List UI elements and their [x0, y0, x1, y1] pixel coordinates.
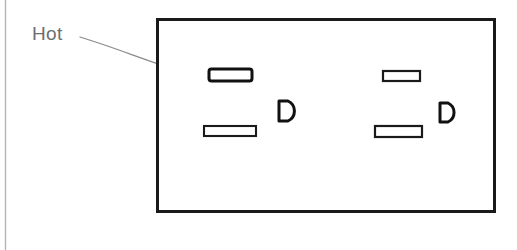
- neutral-slot-left: [204, 126, 256, 136]
- hot-slot-right: [383, 71, 420, 81]
- neutral-slot-right: [375, 126, 422, 137]
- callout-label-hot: Hot: [32, 23, 63, 44]
- hot-slot-left: [209, 69, 252, 81]
- figure-canvas: Hot: [0, 0, 517, 250]
- ground-hole-right: [440, 103, 454, 122]
- ground-hole-left: [279, 101, 294, 121]
- outlet-diagram: Hot: [0, 0, 517, 250]
